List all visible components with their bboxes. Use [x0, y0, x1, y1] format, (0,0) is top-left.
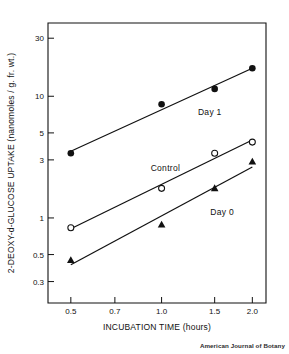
y-tick-label-10: 10	[35, 92, 44, 101]
y-tick-label-0.5: 0.5	[33, 251, 45, 260]
y-tick-label-1: 1	[40, 214, 45, 223]
x-tick-label-1.0: 1.0	[156, 307, 168, 316]
figure-container: 0.30.51351030 0.50.71.01.52.0 Day 1Contr…	[0, 0, 289, 354]
y-tick-label-5: 5	[40, 129, 45, 138]
series-annotation-control: Control	[151, 163, 181, 173]
y-tick-label-30: 30	[35, 34, 44, 43]
series-annotation-group: Day 1ControlDay 0	[151, 107, 234, 217]
journal-credit: American Journal of Botany	[200, 342, 286, 349]
y-axis-tick-labels: 0.30.51351030	[33, 34, 45, 286]
series-annotation-day-0: Day 0	[210, 207, 234, 217]
data-point	[249, 158, 257, 165]
data-point	[212, 150, 218, 156]
trend-line-day-1	[71, 68, 253, 151]
y-axis-title: 2-DEOXY-d-GLUCOSE UPTAKE (nanomoles / g.…	[6, 53, 16, 273]
x-axis-tick-labels: 0.50.71.01.52.0	[65, 307, 258, 316]
data-point	[249, 65, 256, 72]
x-tick-label-0.7: 0.7	[109, 307, 121, 316]
data-point	[158, 221, 166, 228]
y-tick-label-0.3: 0.3	[33, 278, 45, 287]
x-axis-title: INCUBATION TIME (hours)	[103, 322, 211, 332]
y-tick-label-3: 3	[40, 156, 45, 165]
y-axis-ticks	[48, 38, 54, 281]
x-tick-label-1.5: 1.5	[209, 307, 221, 316]
x-tick-label-0.5: 0.5	[65, 307, 77, 316]
data-point	[68, 150, 75, 157]
series-annotation-day-1: Day 1	[198, 107, 222, 117]
chart-canvas: 0.30.51351030 0.50.71.01.52.0 Day 1Contr…	[0, 0, 289, 354]
data-point	[68, 225, 74, 231]
x-tick-label-2.0: 2.0	[247, 307, 259, 316]
data-point	[211, 86, 218, 93]
data-point	[158, 101, 165, 108]
data-point	[159, 185, 165, 191]
x-axis-ticks	[71, 297, 253, 303]
data-point	[67, 256, 75, 263]
data-point	[249, 139, 255, 145]
